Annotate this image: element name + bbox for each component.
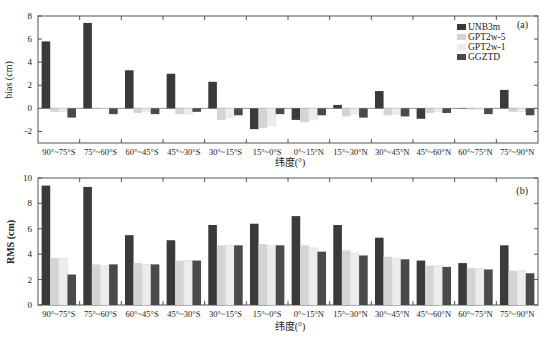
bar-gpt2w-5 xyxy=(50,258,59,305)
x-category-label: 60°~75°N xyxy=(458,147,493,157)
rms-y-axis-title: RMS (cm) xyxy=(5,220,17,264)
y-tick-label: 8 xyxy=(28,198,33,208)
bar-ggztd xyxy=(192,108,201,111)
legend-label: GPT2w-1 xyxy=(468,42,506,52)
bar-gpt2w-5 xyxy=(384,108,393,115)
legend-swatch-gpt2w-1 xyxy=(457,44,466,50)
y-tick-label: 8 xyxy=(28,11,33,21)
bar-gpt2w-1 xyxy=(309,108,318,120)
bar-gpt2w-1 xyxy=(309,248,318,305)
rms-x-axis-title: 纬度(°) xyxy=(275,320,306,333)
bar-ggztd xyxy=(151,264,160,305)
bar-gpt2w-5 xyxy=(300,108,309,122)
bar-unb3m xyxy=(125,70,134,108)
bar-ggztd xyxy=(484,269,493,305)
x-category-label: 30°~45°N xyxy=(375,147,410,157)
bar-unb3m xyxy=(42,186,51,305)
bar-gpt2w-5 xyxy=(259,108,268,128)
rms-panel: 0246810 90°~75°S75°~60°S60°~45°S45°~30°S… xyxy=(5,173,538,333)
x-category-label: 30°~15°S xyxy=(209,147,242,157)
bar-ggztd xyxy=(234,245,243,305)
bar-gpt2w-5 xyxy=(134,108,143,113)
bar-gpt2w-1 xyxy=(142,108,151,111)
bar-ggztd xyxy=(526,108,535,115)
bar-gpt2w-1 xyxy=(184,261,193,305)
bar-unb3m xyxy=(333,225,342,305)
x-category-label: 75°~90°N xyxy=(500,309,535,319)
x-category-label: 15°~0°S xyxy=(253,147,282,157)
bar-gpt2w-5 xyxy=(425,266,434,305)
bar-unb3m xyxy=(417,108,426,118)
bar-gpt2w-1 xyxy=(101,266,110,305)
figure: -202468 90°~75°S75°~60°S60°~45°S45°~30°S… xyxy=(0,0,548,341)
bar-unb3m xyxy=(250,108,259,129)
bar-unb3m xyxy=(458,263,467,305)
bar-gpt2w-5 xyxy=(509,271,518,305)
bar-gpt2w-5 xyxy=(50,108,59,111)
bar-gpt2w-1 xyxy=(226,108,235,117)
y-tick-label: 0 xyxy=(28,103,33,113)
bar-gpt2w-1 xyxy=(226,245,235,305)
legend-swatch-unb3m xyxy=(457,24,466,30)
bar-gpt2w-5 xyxy=(217,245,226,305)
y-tick-label: 4 xyxy=(28,57,33,67)
bar-gpt2w-5 xyxy=(342,250,351,305)
bar-gpt2w-5 xyxy=(92,264,101,305)
bar-ggztd xyxy=(526,273,535,305)
bar-gpt2w-5 xyxy=(342,108,351,116)
y-tick-label: 2 xyxy=(28,80,33,90)
bar-ggztd xyxy=(234,108,243,115)
bar-unb3m xyxy=(250,224,259,305)
bias-y-axis-title: bias (cm) xyxy=(3,61,15,99)
legend-label: GGZTD xyxy=(468,52,500,62)
x-category-label: 60°~75°N xyxy=(458,309,493,319)
y-tick-label: 6 xyxy=(28,224,33,234)
x-category-label: 75°~60°S xyxy=(84,309,117,319)
bar-unb3m xyxy=(292,108,301,120)
bar-gpt2w-1 xyxy=(434,108,443,111)
bar-gpt2w-1 xyxy=(476,108,485,109)
bar-gpt2w-1 xyxy=(142,264,151,305)
bar-gpt2w-1 xyxy=(184,108,193,114)
legend-swatch-ggztd xyxy=(457,54,466,60)
bar-unb3m xyxy=(417,261,426,305)
legend-label: UNB3m xyxy=(468,22,501,32)
bar-ggztd xyxy=(317,252,326,305)
bar-gpt2w-5 xyxy=(175,108,184,114)
y-tick-label: 10 xyxy=(23,173,33,183)
y-tick-label: -2 xyxy=(25,126,33,136)
bias-panel-tag: (a) xyxy=(517,19,528,31)
x-category-label: 90°~75°S xyxy=(42,309,75,319)
bar-gpt2w-5 xyxy=(467,108,476,109)
bar-unb3m xyxy=(333,105,342,108)
rms-bars xyxy=(42,186,535,305)
bar-gpt2w-1 xyxy=(267,245,276,305)
y-tick-label: 0 xyxy=(28,300,33,310)
bar-ggztd xyxy=(276,245,285,305)
bar-unb3m xyxy=(500,245,509,305)
bar-gpt2w-5 xyxy=(300,245,309,305)
bar-gpt2w-1 xyxy=(59,258,68,305)
bar-gpt2w-1 xyxy=(517,108,526,111)
bias-x-axis-title: 纬度(°) xyxy=(275,156,306,169)
x-category-label: 0°~15°N xyxy=(294,147,324,157)
x-category-label: 45°~30°S xyxy=(167,147,200,157)
bar-gpt2w-5 xyxy=(384,257,393,305)
x-category-label: 75°~90°N xyxy=(500,147,535,157)
bar-ggztd xyxy=(359,108,368,117)
bar-ggztd xyxy=(109,108,118,114)
x-category-label: 75°~60°S xyxy=(84,147,117,157)
bar-gpt2w-1 xyxy=(392,258,401,305)
bar-gpt2w-5 xyxy=(509,108,518,111)
x-category-label: 90°~75°S xyxy=(42,147,75,157)
x-category-label: 60°~45°S xyxy=(126,309,159,319)
bar-unb3m xyxy=(125,235,134,305)
bar-unb3m xyxy=(83,187,92,305)
bar-gpt2w-1 xyxy=(351,253,360,305)
bar-ggztd xyxy=(67,108,76,117)
bar-gpt2w-1 xyxy=(59,108,68,111)
x-category-label: 60°~45°S xyxy=(126,147,159,157)
x-category-label: 15°~30°N xyxy=(333,309,368,319)
bar-gpt2w-5 xyxy=(259,244,268,305)
bar-unb3m xyxy=(42,41,51,108)
